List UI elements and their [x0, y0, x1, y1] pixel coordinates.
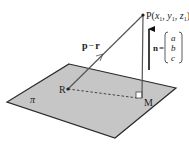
matrix-left-bracket — [165, 32, 168, 63]
diagram-canvas: P(x1, y1, z1) p−r n = a b c R M π — [0, 0, 189, 145]
label-equals: = — [159, 43, 164, 53]
label-p-minus-r: p−r — [82, 40, 100, 51]
point-plane-distance-diagram: P(x1, y1, z1) p−r n = a b c R M π — [0, 0, 189, 145]
matrix-right-bracket — [179, 32, 182, 63]
point-p-dot — [141, 13, 144, 16]
label-r: R — [59, 84, 66, 95]
matrix-a: a — [171, 33, 176, 43]
matrix-b: b — [171, 43, 176, 53]
point-r-dot — [66, 87, 69, 90]
right-angle-marker — [136, 92, 142, 98]
label-p: P(x1, y1, z1) — [146, 10, 189, 22]
label-m: M — [144, 97, 153, 108]
label-n: n — [153, 43, 158, 53]
matrix-c: c — [171, 53, 175, 63]
